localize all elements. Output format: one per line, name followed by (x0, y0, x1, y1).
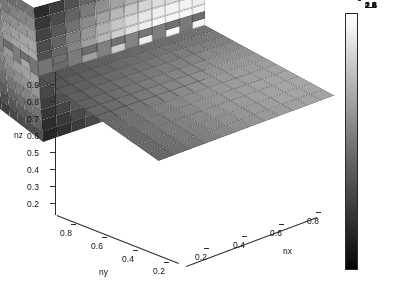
voxel-cell-ny (49, 0, 65, 15)
z-tick-mark (50, 118, 56, 119)
colorbar (345, 13, 358, 270)
z-tick-label: 0.7 (27, 114, 39, 124)
y-axis-title: ny (99, 267, 108, 277)
x-tick-label: 0.6 (270, 228, 282, 238)
x-tick-mark (242, 236, 247, 237)
y-tick-label: 0.4 (122, 254, 134, 264)
colorbar-tick-label: 0.8 (365, 0, 377, 10)
z-tick-mark (50, 84, 56, 85)
z-tick-mark (50, 152, 56, 153)
z-tick-label: 0.8 (27, 97, 39, 107)
y-tick-label: 0.6 (91, 241, 103, 251)
x-tick-mark (204, 248, 209, 249)
x-axis-title: nx (283, 246, 292, 256)
z-tick-label: 0.9 (27, 80, 39, 90)
voxel-cell-top (237, 73, 262, 84)
z-axis-title: nz (14, 130, 23, 140)
x-tick-mark (316, 212, 321, 213)
y-tick-mark (164, 262, 169, 263)
z-tick-mark (50, 203, 56, 204)
x-tick-mark (279, 224, 284, 225)
z-tick-label: 0.6 (27, 131, 39, 141)
z-tick-label: 0.4 (27, 165, 39, 175)
y-tick-mark (71, 224, 76, 225)
z-tick-label: 0.2 (27, 199, 39, 209)
z-tick-mark (50, 135, 56, 136)
x-tick-label: 0.2 (195, 252, 207, 262)
z-tick-label: 0.5 (27, 148, 39, 158)
figure-canvas: 0.90.80.70.60.50.40.30.2 nz 0.20.40.60.8… (0, 0, 394, 306)
y-tick-label: 0.2 (153, 266, 165, 276)
voxel-cell-ny (66, 18, 81, 34)
y-tick-label: 0.8 (60, 228, 72, 238)
x-tick-label: 0.8 (307, 216, 319, 226)
y-tick-mark (102, 237, 107, 238)
colorbar-tick-mark (358, 0, 361, 1)
y-tick-mark (133, 250, 138, 251)
z-tick-mark (50, 101, 56, 102)
z-tick-mark (50, 169, 56, 170)
z-tick-mark (50, 186, 56, 187)
z-tick-label: 0.3 (27, 182, 39, 192)
z-axis-line (55, 72, 56, 215)
x-tick-label: 0.4 (233, 240, 245, 250)
